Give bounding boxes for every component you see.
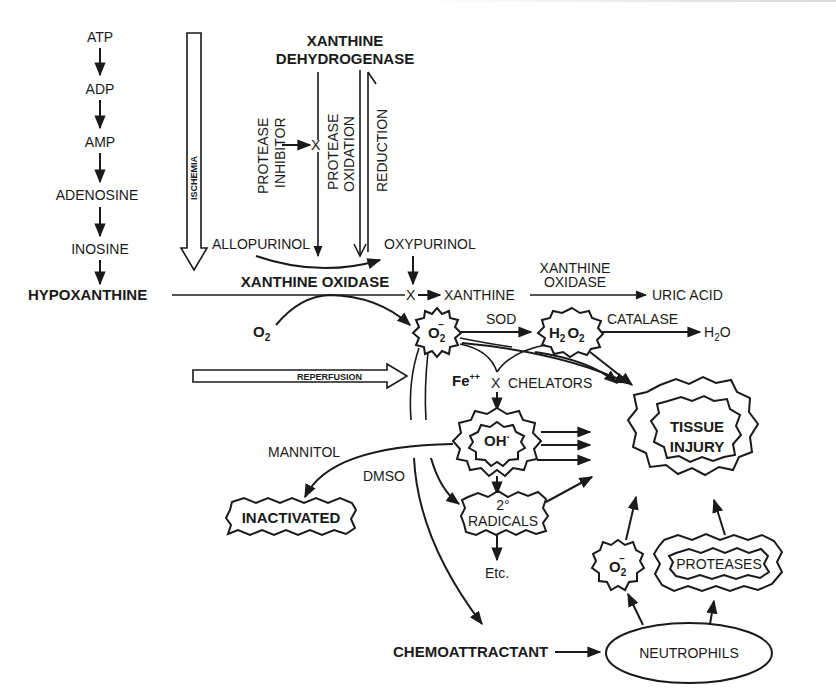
sod-label: SOD [486, 311, 516, 327]
amp-label: AMP [85, 134, 115, 150]
oxypurinol-label: OXYPURINOL [384, 236, 476, 252]
protease-oxidation-label-2: OXIDATION [341, 116, 357, 192]
chemoattractant-label: CHEMOATTRACTANT [393, 643, 548, 660]
catalase-label: CATALASE [607, 311, 678, 327]
xdh-label-line2: DEHYDROGENASE [276, 50, 414, 67]
protease-oxidation-label-1: PROTEASE [325, 114, 341, 190]
protease-inhibitor-label-1: PROTEASE [255, 118, 271, 194]
xanthine-oxidase-label: XANTHINE OXIDASE [241, 273, 389, 290]
atp-label: ATP [87, 29, 113, 45]
o2-label: O2 [253, 323, 271, 343]
fenton-reaction: Fe++ X CHELATORS [452, 338, 632, 410]
superoxide-to-chemoattractant-arrow [414, 458, 482, 624]
superoxide-descending-line-1 [410, 348, 419, 420]
tissue-injury-node: TISSUE INJURY [628, 377, 758, 475]
allopurinol-to-oxypurinol-arrow [256, 256, 380, 268]
proteases-label: PROTEASES [676, 556, 762, 572]
oxygen-branch: O2 [253, 295, 410, 343]
uric-acid-label: URIC ACID [652, 287, 723, 303]
proteases-node: PROTEASES [654, 534, 782, 591]
ischemia-arrow-shape [181, 33, 207, 270]
secondary-radicals-node: 2° RADICALS [461, 491, 548, 535]
xanthine-label: XANTHINE [444, 287, 515, 303]
h2o2-node: H2O2 [538, 308, 603, 357]
o2-to-superoxide-arrow [276, 295, 410, 325]
superoxide-descending-line-2 [425, 352, 428, 420]
etc-label: Etc. [485, 565, 509, 581]
xdh-conversion: XANTHINE DEHYDROGENASE PROTEASE INHIBITO… [255, 32, 414, 256]
scavenger-branch: MANNITOL DMSO INACTIVATED [226, 444, 453, 535]
adenosine-label: ADENOSINE [56, 187, 138, 203]
superoxide-node: O2− [413, 308, 461, 357]
neutrophils-to-superoxide-arrow [628, 594, 643, 625]
hydroxyl-node: OH· [453, 408, 541, 476]
ischemia-reperfusion-diagram: ATP ADP AMP ADENOSINE INOSINE HYPOXANTHI… [0, 0, 836, 697]
chelators-label: CHELATORS [508, 375, 592, 391]
ischemia-label: ISCHEMIA [189, 155, 199, 200]
proteases-to-tissue-arrow [714, 500, 725, 535]
inosine-label: INOSINE [71, 241, 129, 257]
reperfusion-label: REPERFUSION [297, 372, 362, 382]
superoxide-curve-to-x [460, 344, 497, 372]
tissue-label-1: TISSUE [670, 418, 724, 435]
reduction-label: REDUCTION [374, 109, 390, 192]
adp-label: ADP [86, 81, 115, 97]
purine-cascade: ATP ADP AMP ADENOSINE INOSINE HYPOXANTHI… [28, 29, 147, 303]
reduction-arrowhead [368, 72, 376, 84]
dmso-label: DMSO [363, 468, 405, 484]
superoxide-to-secondary-arrow [431, 458, 459, 504]
xanthine-oxidase-2-line2: OXIDASE [544, 274, 606, 290]
secondary-label-2: RADICALS [468, 513, 538, 529]
neutrophils-label: NEUTROPHILS [639, 645, 739, 661]
protease-block-x: X [311, 137, 321, 153]
secondary-to-tissue-arrow [546, 477, 592, 502]
neutrophil-superoxide-to-tissue-arrow [626, 497, 636, 540]
hypoxanthine-label: HYPOXANTHINE [28, 286, 147, 303]
neutrophil-superoxide-node: O2− [592, 540, 644, 590]
xdh-label-line1: XANTHINE [307, 32, 384, 49]
fenton-block-x: X [491, 375, 501, 391]
xo-block-x: X [406, 287, 416, 303]
allopurinol-label: ALLOPURINOL [212, 236, 310, 252]
h2o-label: H2O [704, 324, 731, 343]
reperfusion-arrow: REPERFUSION [193, 364, 407, 388]
ischemia-arrow: ISCHEMIA [181, 33, 207, 270]
inactivated-label: INACTIVATED [242, 509, 341, 526]
mannitol-label: MANNITOL [268, 444, 340, 460]
main-reaction-line: XANTHINE OXIDASE X XANTHINE XANTHINE OXI… [172, 260, 723, 303]
neutrophils-to-proteases-arrow [710, 601, 714, 624]
neutrophil-branch: CHEMOATTRACTANT NEUTROPHILS [393, 594, 772, 683]
tissue-label-2: INJURY [670, 438, 724, 455]
protease-inhibitor-label-2: INHIBITOR [272, 117, 288, 188]
fe-label: Fe++ [452, 372, 480, 389]
secondary-label-1: 2° [496, 497, 509, 513]
hydroxyl-label: OH· [484, 431, 510, 449]
